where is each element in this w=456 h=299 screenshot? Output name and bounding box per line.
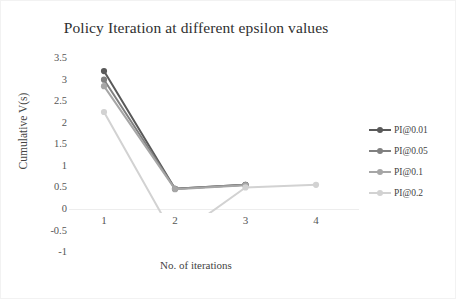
legend-swatch-icon — [369, 167, 391, 177]
x-tick-label: 3 — [233, 214, 259, 226]
y-axis-tick-labels: 3.532.521.510.50-0.5-1 — [29, 1, 67, 299]
legend-item-pi-0-1[interactable]: PI@0.1 — [369, 161, 456, 182]
data-point-marker — [172, 186, 178, 192]
y-tick-label: 3 — [33, 75, 67, 85]
data-point-marker — [101, 68, 107, 74]
legend-swatch-icon — [369, 146, 391, 156]
legend-item-pi-0-01[interactable]: PI@0.01 — [369, 119, 456, 140]
y-tick-label: 3.5 — [33, 53, 67, 63]
plot-area — [69, 53, 354, 213]
legend-dot-icon — [377, 190, 383, 196]
legend-swatch-icon — [369, 125, 391, 135]
legend-label: PI@0.2 — [394, 188, 423, 198]
y-tick-label: 0 — [33, 204, 67, 214]
series-lines — [69, 53, 354, 213]
data-point-marker — [313, 182, 319, 188]
y-tick-label: 2 — [33, 118, 67, 128]
series-line — [104, 86, 246, 189]
legend-dot-icon — [377, 148, 383, 154]
y-tick-label: -1 — [33, 247, 67, 257]
data-point-marker — [101, 109, 107, 115]
x-tick-label: 4 — [303, 214, 329, 226]
legend-label: PI@0.01 — [394, 125, 428, 135]
y-tick-label: 0.5 — [33, 182, 67, 192]
data-point-marker — [242, 184, 248, 190]
y-axis-title: Cumulative V(s) — [17, 76, 29, 186]
y-tick-label: 1.5 — [33, 139, 67, 149]
x-axis-title: No. of iterations — [96, 259, 296, 271]
series-line — [104, 71, 246, 189]
y-tick-label: 2.5 — [33, 96, 67, 106]
legend-item-pi-0-2[interactable]: PI@0.2 — [369, 182, 456, 203]
y-tick-label: 1 — [33, 161, 67, 171]
legend-dot-icon — [377, 127, 383, 133]
data-point-marker — [101, 77, 107, 83]
legend-swatch-icon — [369, 188, 391, 198]
legend-label: PI@0.05 — [394, 146, 428, 156]
data-point-marker — [101, 83, 107, 89]
x-tick-label: 1 — [91, 214, 117, 226]
chart-legend: PI@0.01PI@0.05PI@0.1PI@0.2 — [369, 119, 456, 203]
y-tick-label: -0.5 — [33, 226, 67, 236]
chart-card: Policy Iteration at different epsilon va… — [0, 0, 456, 299]
legend-item-pi-0-05[interactable]: PI@0.05 — [369, 140, 456, 161]
x-tick-label: 2 — [162, 214, 188, 226]
legend-dot-icon — [377, 169, 383, 175]
series-line — [104, 80, 246, 189]
legend-label: PI@0.1 — [394, 167, 423, 177]
